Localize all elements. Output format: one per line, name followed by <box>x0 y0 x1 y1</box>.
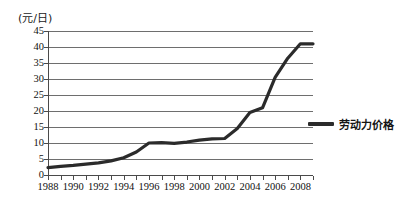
x-axis-tick-mark <box>199 176 200 180</box>
y-axis-tick-label: 25 <box>8 90 44 101</box>
y-axis-tick-mark <box>44 159 49 160</box>
labor-price-line-chart: (元/日) 454035302520151050 198819901992199… <box>0 0 413 205</box>
x-axis-tick-mark <box>174 176 175 180</box>
x-axis-tick-mark <box>149 176 150 180</box>
x-axis-tick-mark <box>111 176 112 180</box>
y-axis-tick-mark <box>44 79 49 80</box>
x-axis-tick-mark <box>313 176 314 180</box>
x-axis-tick-mark <box>61 176 62 180</box>
y-axis-tick-label: 5 <box>8 154 44 165</box>
x-axis-tick-mark <box>225 176 226 180</box>
y-axis-tick-label: 45 <box>8 26 44 37</box>
x-axis-tick-mark <box>275 176 276 180</box>
y-axis-tick-label: 35 <box>8 58 44 69</box>
x-axis-tick-mark <box>288 176 289 180</box>
x-axis-tick-label: 2008 <box>283 182 317 193</box>
y-axis-unit-title: (元/日) <box>18 9 52 25</box>
chart-legend: 劳动力价格 <box>308 116 394 132</box>
gridline <box>48 175 313 176</box>
y-axis-tick-mark <box>44 47 49 48</box>
y-axis-tick-label: 40 <box>8 42 44 53</box>
y-axis-tick-mark <box>44 111 49 112</box>
x-axis-tick-mark <box>136 176 137 180</box>
y-axis-tick-label: 20 <box>8 106 44 117</box>
x-axis-tick-mark <box>263 176 264 180</box>
y-axis-tick-mark <box>44 127 49 128</box>
y-axis-tick-mark <box>44 143 49 144</box>
x-axis-tick-mark <box>98 176 99 180</box>
legend-label-labor-price: 劳动力价格 <box>339 116 394 132</box>
x-axis-tick-mark <box>86 176 87 180</box>
y-axis-tick-mark <box>44 63 49 64</box>
y-axis-tick-label: 30 <box>8 74 44 85</box>
y-axis-tick-mark <box>44 95 49 96</box>
legend-swatch-labor-price <box>308 122 334 126</box>
y-axis-tick-label: 15 <box>8 122 44 133</box>
y-axis-tick-label: 10 <box>8 138 44 149</box>
x-axis-tick-mark <box>212 176 213 180</box>
x-axis-tick-mark <box>187 176 188 180</box>
x-axis-tick-mark <box>250 176 251 180</box>
y-axis-tick-label: 0 <box>8 170 44 181</box>
y-axis-tick-mark <box>44 175 49 176</box>
series-line-labor-price <box>48 31 313 175</box>
y-axis-tick-labels: 454035302520151050 <box>0 31 44 175</box>
x-axis-tick-mark <box>73 176 74 180</box>
x-axis-tick-mark <box>237 176 238 180</box>
x-axis-tick-mark <box>162 176 163 180</box>
series-path <box>48 44 313 168</box>
x-axis-tick-mark <box>124 176 125 180</box>
y-axis-tick-mark <box>44 31 49 32</box>
x-axis-tick-mark <box>300 176 301 180</box>
x-axis-tick-mark <box>48 176 49 180</box>
